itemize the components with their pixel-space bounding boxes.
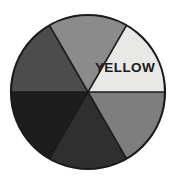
color-wheel-figure: YELLOW [0,0,178,191]
slice-labels: YELLOW [95,60,155,75]
color-wheel-chart: YELLOW [0,0,178,191]
slice-label-yellow: YELLOW [95,60,155,75]
